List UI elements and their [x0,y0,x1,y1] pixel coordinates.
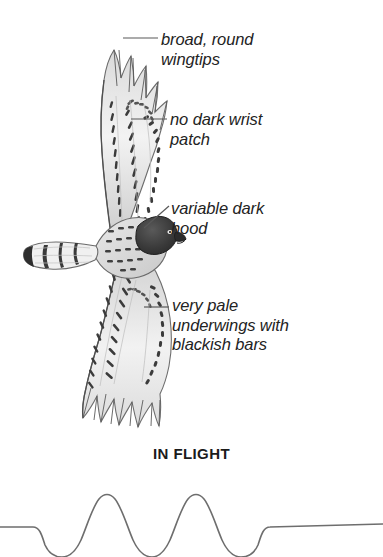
annotation-label-hood: variable dark hood [171,199,264,238]
plate-background [0,0,383,557]
in-flight-caption: IN FLIGHT [0,445,383,462]
annotation-label-wrist: no dark wrist patch [170,110,262,149]
annotation-label-wingtips: broad, round wingtips [161,30,253,69]
field-guide-plate [0,0,383,557]
annotation-label-underwings: very pale underwings with blackish bars [172,296,289,355]
